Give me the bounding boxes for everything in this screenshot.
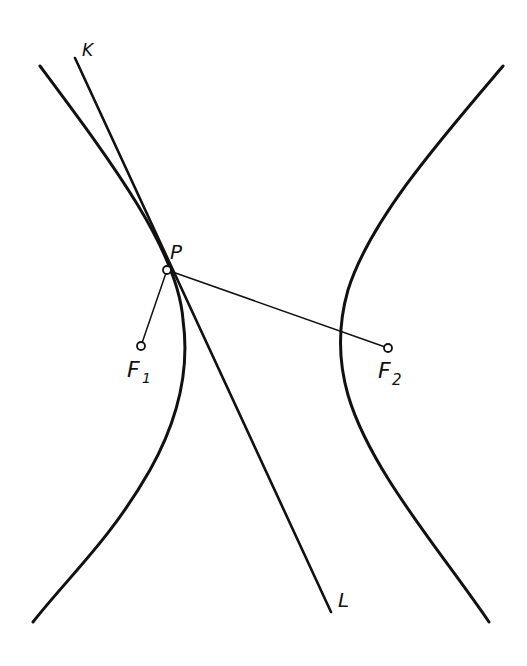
svg-text:F: F bbox=[127, 357, 140, 382]
hyperbola-right-branch bbox=[341, 66, 504, 622]
svg-text:1: 1 bbox=[142, 370, 151, 386]
focal-radius-PF1 bbox=[141, 270, 167, 346]
focal-radius-PF2 bbox=[167, 270, 388, 348]
hyperbola-diagram: K P L F 1 F 2 bbox=[0, 0, 527, 666]
focus-F1 bbox=[137, 342, 145, 350]
svg-text:2: 2 bbox=[392, 371, 402, 389]
focus-F2 bbox=[384, 344, 392, 352]
label-P: P bbox=[170, 240, 183, 264]
label-K: K bbox=[82, 40, 95, 60]
hyperbola-left-branch bbox=[33, 66, 185, 622]
point-P bbox=[163, 266, 171, 274]
svg-text:F: F bbox=[378, 358, 391, 383]
tangent-line-KL bbox=[75, 58, 331, 612]
label-F1: F 1 bbox=[127, 357, 151, 386]
label-F2: F 2 bbox=[378, 358, 402, 389]
label-L: L bbox=[338, 588, 349, 612]
